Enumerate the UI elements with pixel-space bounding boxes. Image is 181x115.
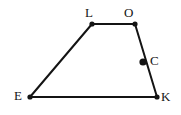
vertex-label-o: O [124, 6, 133, 19]
vertex-point-k [154, 94, 159, 99]
vertex-point-e [27, 94, 32, 99]
vertex-label-l: L [85, 6, 93, 19]
vertex-label-k: K [161, 90, 170, 103]
marked-point-c [139, 58, 146, 65]
segments-group [30, 24, 157, 97]
vertex-label-c: C [150, 54, 159, 67]
dots-group [27, 21, 159, 99]
vertex-label-e: E [14, 89, 22, 102]
segment-el [30, 24, 92, 97]
vertex-point-o [132, 21, 137, 26]
vertex-point-l [89, 21, 94, 26]
geometry-figure: LOCKE [0, 0, 181, 115]
